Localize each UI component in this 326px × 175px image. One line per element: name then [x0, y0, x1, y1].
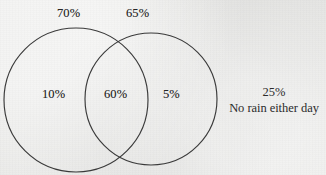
label-outside-caption: No rain either day: [222, 101, 326, 116]
label-set-b-total: 65%: [126, 6, 149, 20]
label-set-a-only: 10%: [42, 87, 65, 101]
outside-region-annotation: 25% No rain either day: [222, 85, 326, 116]
label-set-a-total: 70%: [57, 6, 80, 20]
label-outside-value: 25%: [222, 85, 326, 100]
label-intersection: 60%: [104, 87, 127, 101]
venn-diagram-figure: 70% 65% 10% 60% 5% 25% No rain either da…: [0, 0, 326, 175]
label-set-b-only: 5%: [163, 87, 180, 101]
